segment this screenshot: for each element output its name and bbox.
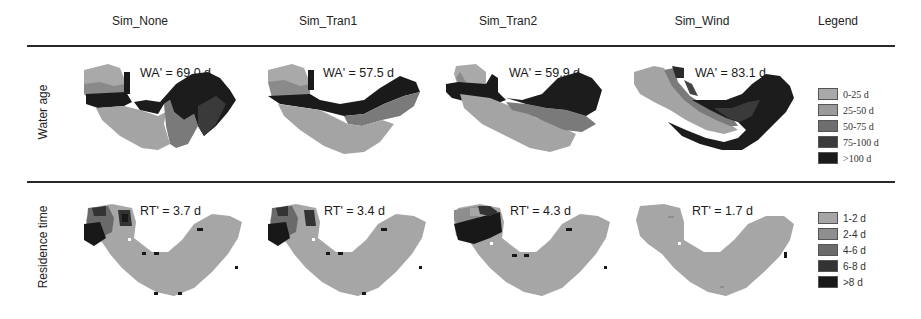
legend-item: 2-4 d [818,226,866,242]
residence-time-legend: 1-2 d 2-4 d 4-6 d 6-8 d >8 d [818,210,866,290]
legend-swatch [818,152,838,164]
water-age-map-sim-none [80,64,260,174]
legend-swatch [818,88,838,100]
residence-time-metric-sim-none: RT' = 3.7 d [140,204,201,218]
water-age-map-sim-wind [634,64,814,174]
legend-swatch [818,104,838,116]
legend-swatch [818,228,838,240]
legend-item: 4-6 d [818,242,866,258]
legend-label: >8 d [843,277,863,288]
water-age-metric-sim-wind: WA' = 83.1 d [695,66,766,80]
middle-divider [27,181,895,183]
legend-label: >100 d [843,153,871,164]
row-label-water-age: Water age [36,57,50,167]
row-label-residence-time: Residence time [36,192,50,302]
legend-item: 50-75 d [818,118,879,134]
water-age-metric-sim-none: WA' = 69.0 d [140,66,211,80]
column-title-sim-tran1: Sim_Tran1 [258,14,398,28]
legend-label: 25-50 d [843,105,874,116]
legend-item: 25-50 d [818,102,879,118]
residence-time-map-sim-tran2 [450,202,630,312]
column-title-sim-wind: Sim_Wind [632,14,772,28]
column-title-legend: Legend [768,14,908,28]
water-age-map-sim-tran2 [446,64,626,174]
legend-swatch [818,136,838,148]
water-age-legend: 0-25 d 25-50 d 50-75 d 75-100 d >100 d [818,86,879,166]
top-divider [27,45,895,47]
legend-item: 75-100 d [818,134,879,150]
legend-label: 2-4 d [843,229,866,240]
residence-time-map-sim-wind [634,202,814,312]
legend-swatch [818,212,838,224]
residence-time-map-sim-none [82,202,262,312]
legend-label: 4-6 d [843,245,866,256]
legend-label: 75-100 d [843,137,879,148]
legend-item: 1-2 d [818,210,866,226]
legend-label: 0-25 d [843,89,869,100]
residence-time-metric-sim-tran1: RT' = 3.4 d [324,204,385,218]
column-title-sim-tran2: Sim_Tran2 [438,14,578,28]
legend-label: 1-2 d [843,213,866,224]
legend-item: 0-25 d [818,86,879,102]
residence-time-map-sim-tran1 [266,202,446,312]
residence-time-metric-sim-tran2: RT' = 4.3 d [510,204,571,218]
water-age-metric-sim-tran1: WA' = 57.5 d [323,66,394,80]
legend-swatch [818,260,838,272]
legend-item: 6-8 d [818,258,866,274]
legend-label: 50-75 d [843,121,874,132]
legend-item: >100 d [818,150,879,166]
legend-label: 6-8 d [843,261,866,272]
residence-time-metric-sim-wind: RT' = 1.7 d [692,204,753,218]
legend-swatch [818,244,838,256]
water-age-metric-sim-tran2: WA' = 59.9 d [509,66,580,80]
water-age-map-sim-tran1 [264,64,444,174]
column-title-sim-none: Sim_None [70,14,210,28]
legend-swatch [818,276,838,288]
legend-swatch [818,120,838,132]
legend-item: >8 d [818,274,866,290]
